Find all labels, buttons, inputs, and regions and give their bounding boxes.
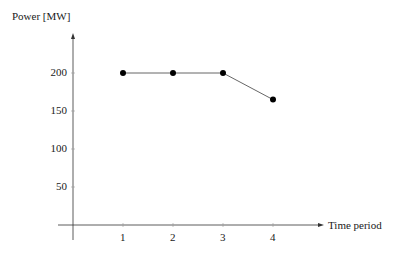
- data-line: [123, 73, 273, 100]
- y-tick-label: 100: [51, 142, 68, 154]
- data-markers: [120, 70, 276, 103]
- data-point: [170, 70, 176, 76]
- y-tick-label: 50: [56, 180, 67, 192]
- y-axis-label: Power [MW]: [12, 10, 70, 22]
- x-tick-label: 4: [270, 231, 276, 243]
- x-axis-label: Time period: [328, 219, 382, 231]
- x-tick-label: 2: [170, 231, 176, 243]
- x-axis: [58, 223, 324, 227]
- data-point: [270, 97, 276, 103]
- x-tick-label: 1: [120, 231, 126, 243]
- y-axis: [71, 33, 75, 240]
- y-tick-label: 150: [51, 104, 68, 116]
- line-chart: [0, 0, 394, 256]
- data-point: [120, 70, 126, 76]
- y-tick-label: 200: [51, 66, 68, 78]
- x-tick-label: 3: [220, 231, 226, 243]
- data-point: [220, 70, 226, 76]
